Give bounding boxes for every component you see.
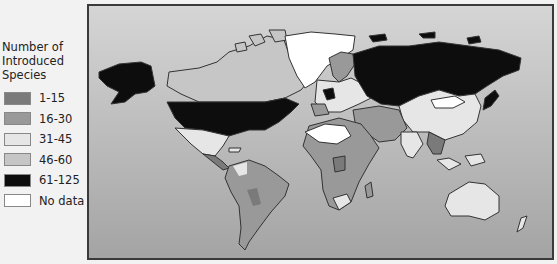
legend-label: 46-60 <box>39 153 72 167</box>
legend-title-line: Introduced <box>2 54 86 68</box>
legend-swatch <box>4 153 31 166</box>
legend-swatch <box>4 194 31 207</box>
legend-label: 16-30 <box>39 112 72 126</box>
legend-title: Number of Introduced Species <box>2 40 86 82</box>
region-australia <box>445 182 499 220</box>
legend-item-61-125: 61-125 <box>0 170 86 191</box>
map-legend: Number of Introduced Species 1-15 16-30 … <box>0 40 86 211</box>
world-map <box>87 4 554 260</box>
legend-label: No data <box>39 194 84 208</box>
legend-label: 61-125 <box>39 173 80 187</box>
region-alaska <box>99 62 155 104</box>
legend-title-line: Species <box>2 68 86 82</box>
world-map-graphic <box>89 6 552 258</box>
region-new-zealand <box>517 216 527 232</box>
region-japan <box>483 90 499 110</box>
region-india <box>401 132 423 158</box>
legend-title-line: Number of <box>2 40 86 54</box>
legend-swatch <box>4 92 31 105</box>
legend-swatch <box>4 133 31 146</box>
legend-item-31-45: 31-45 <box>0 129 86 150</box>
legend-swatch <box>4 112 31 125</box>
legend-swatch <box>4 174 31 187</box>
legend-item-1-15: 1-15 <box>0 88 86 109</box>
legend-item-16-30: 16-30 <box>0 109 86 130</box>
legend-item-no-data: No data <box>0 191 86 212</box>
legend-label: 1-15 <box>39 91 65 105</box>
legend-label: 31-45 <box>39 132 72 146</box>
legend-item-46-60: 46-60 <box>0 150 86 171</box>
